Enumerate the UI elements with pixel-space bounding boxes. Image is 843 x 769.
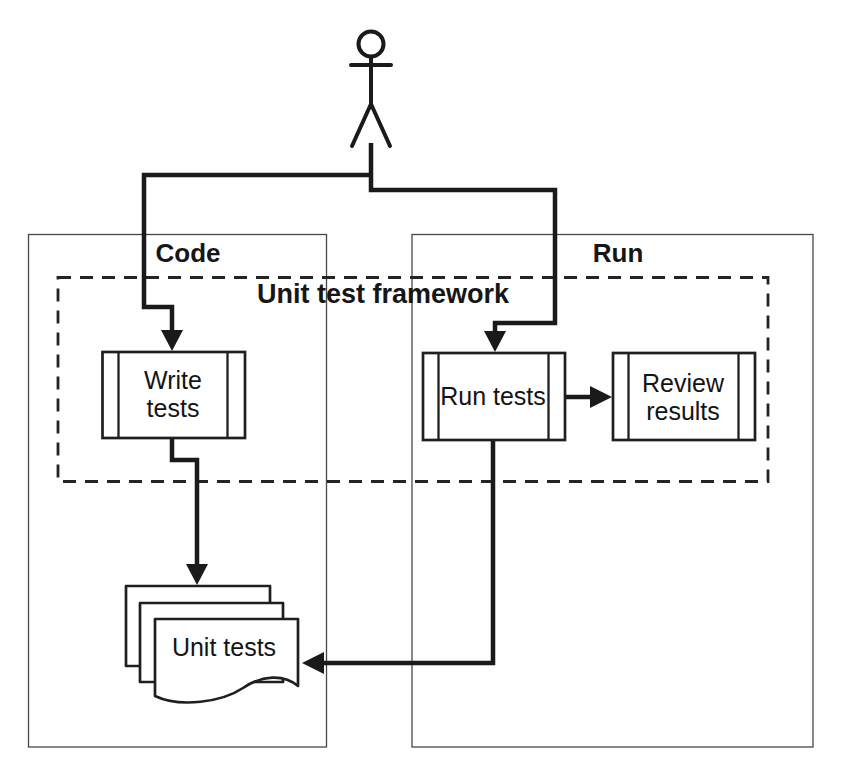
arrowhead-unit-tests-side bbox=[302, 652, 324, 674]
actor-icon bbox=[351, 32, 391, 147]
write-tests-label-line1: Write bbox=[144, 366, 202, 394]
arrowhead-write-tests bbox=[161, 330, 183, 351]
actor-left-leg bbox=[352, 104, 371, 146]
framework-label: Unit test framework bbox=[257, 279, 510, 309]
actor-right-leg bbox=[371, 104, 390, 146]
unit-tests-document: Unit tests bbox=[126, 586, 298, 702]
arrowhead-review-results bbox=[590, 386, 612, 408]
arrowhead-run-tests bbox=[484, 331, 506, 352]
run-tests-node: Run tests bbox=[423, 353, 565, 440]
write-tests-label-line2: tests bbox=[147, 394, 200, 422]
diagram-canvas: Code Run Unit test framework bbox=[0, 0, 843, 769]
run-lane bbox=[412, 235, 813, 748]
edge-write-tests-to-unit-tests bbox=[172, 438, 197, 565]
review-results-label-line2: results bbox=[646, 397, 720, 425]
write-tests-node: Write tests bbox=[103, 352, 246, 438]
unit-tests-label: Unit tests bbox=[172, 633, 276, 661]
code-lane-label: Code bbox=[156, 238, 221, 268]
run-tests-label: Run tests bbox=[440, 382, 546, 410]
review-results-node: Review results bbox=[613, 353, 755, 440]
run-lane-label: Run bbox=[593, 238, 644, 268]
review-results-label-line1: Review bbox=[642, 369, 725, 397]
arrowhead-unit-tests-top bbox=[186, 564, 208, 585]
actor-head bbox=[359, 32, 384, 57]
edge-run-tests-to-unit-tests bbox=[324, 440, 493, 663]
